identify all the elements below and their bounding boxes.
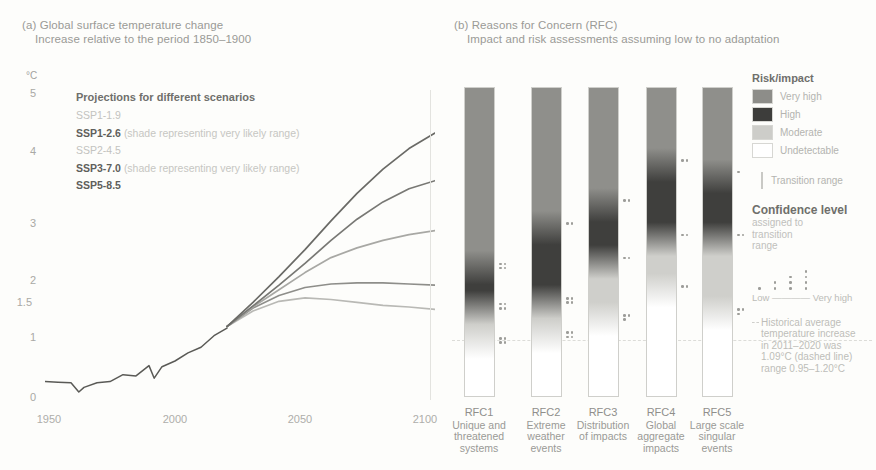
- confidence-dot-icon: [623, 199, 626, 202]
- confidence-dot-icon: [681, 159, 684, 162]
- rfc-bar-rfc1[interactable]: [464, 87, 495, 397]
- rfc-code: RFC3: [572, 407, 634, 419]
- historical-note-line-2: temperature increase: [761, 328, 876, 340]
- confidence-dot-icon: [805, 287, 808, 290]
- historical-note-line-1: Historical average: [761, 317, 876, 329]
- y-tick-1: 1: [10, 331, 36, 343]
- confidence-dot-icon: [789, 287, 792, 290]
- rfc-name: Unique and threatened systems: [452, 419, 506, 454]
- rfc-name: Distribution of impacts: [577, 419, 630, 443]
- swatch-high-icon: [752, 107, 773, 122]
- confidence-dot-icon: [623, 257, 626, 260]
- rfc-bar-rfc4[interactable]: [646, 87, 677, 397]
- confidence-dot-icon: [571, 301, 574, 304]
- temperature-plot-area: [45, 90, 435, 400]
- confidence-dot-icon: [774, 281, 777, 284]
- risk-label-undetectable: Undetectable: [780, 145, 839, 156]
- panel-b-title: Reasons for Concern (RFC): [472, 19, 618, 31]
- confidence-scale-col-1: [758, 287, 761, 290]
- temperature-lines: [45, 90, 435, 400]
- rfc-name: Global aggregate impacts: [637, 419, 684, 454]
- risk-level-high: High: [752, 106, 876, 123]
- rfc-code: RFC1: [448, 407, 510, 419]
- confidence-dots-rfc4-t1: [681, 284, 693, 288]
- confidence-dots-rfc5-t3: [737, 169, 749, 173]
- rfc-code: RFC5: [686, 407, 748, 419]
- historical-note: Historical average temperature increase …: [752, 317, 876, 375]
- panel-a-label: (a): [22, 19, 36, 31]
- confidence-sub-2: transition: [752, 229, 876, 241]
- confidence-dot-icon: [628, 257, 631, 260]
- confidence-dot-icon: [504, 307, 507, 310]
- rfc-label-rfc1: RFC1Unique and threatened systems: [448, 407, 510, 454]
- confidence-dot-icon: [504, 341, 507, 344]
- y-tick-3: 3: [10, 217, 36, 229]
- confidence-dot-icon: [789, 281, 792, 284]
- rfc-name: Extreme weather events: [526, 419, 565, 454]
- confidence-dot-icon: [686, 159, 689, 162]
- confidence-scale-col-3: [789, 276, 792, 290]
- rfc-bar-column-rfc4[interactable]: [646, 87, 677, 397]
- confidence-sub-1: assigned to: [752, 217, 876, 229]
- confidence-dots-rfc5-t2: [737, 232, 749, 236]
- panel-a-temperature-chart: (a) Global surface temperature change In…: [0, 0, 450, 470]
- confidence-very-high-label: Very high: [813, 292, 853, 303]
- rfc-bar-rfc2[interactable]: [531, 87, 562, 397]
- rfc-label-rfc2: RFC2Extreme weather events: [515, 407, 577, 454]
- confidence-dot-icon: [566, 301, 569, 304]
- risk-legend: Risk/impact Very high High Moderate Unde…: [752, 72, 876, 374]
- confidence-dots-rfc5-t1: [737, 307, 749, 316]
- confidence-scale-arrow: ————: [772, 292, 813, 303]
- rfc-label-rfc5: RFC5Large scale singular events: [686, 407, 748, 454]
- y-tick-2: 2: [10, 274, 36, 286]
- y-tick-4: 4: [10, 145, 36, 157]
- confidence-dot-icon: [737, 313, 740, 316]
- historical-note-line-5: range 0.95–1.20°C: [761, 363, 876, 375]
- line-ssp3-7-0: [227, 181, 435, 327]
- rfc-bar-column-rfc3[interactable]: [588, 87, 619, 397]
- confidence-dots-rfc3-t1: [623, 313, 635, 322]
- confidence-dot-icon: [686, 234, 689, 237]
- confidence-sub-3: range: [752, 240, 876, 252]
- line-historical: [45, 328, 227, 392]
- confidence-dot-icon: [499, 267, 502, 270]
- risk-level-undetectable: Undetectable: [752, 142, 876, 159]
- confidence-scale-col-4: [805, 270, 808, 289]
- transition-range-icon: [761, 172, 763, 189]
- risk-label-very-high: Very high: [780, 91, 822, 102]
- y-tick-1-5: 1.5: [6, 296, 32, 308]
- confidence-dot-icon: [499, 307, 502, 310]
- panel-a-subtitle: Increase relative to the period 1850–190…: [22, 32, 251, 46]
- confidence-dots-rfc3-t2: [623, 255, 635, 259]
- confidence-dot-scale: [758, 256, 876, 290]
- rfc-bar-column-rfc5[interactable]: [702, 87, 733, 397]
- confidence-dot-icon: [571, 336, 574, 339]
- confidence-scale-labels: Low ———— Very high: [752, 292, 876, 303]
- y-tick-0: 0: [10, 391, 36, 403]
- confidence-dot-icon: [789, 276, 792, 279]
- confidence-dots-rfc2-t1: [566, 330, 578, 339]
- rfc-bar-rfc5[interactable]: [702, 87, 733, 397]
- confidence-dot-icon: [623, 314, 626, 317]
- rfc-name: Large scale singular events: [690, 419, 744, 454]
- confidence-dot-icon: [737, 234, 740, 237]
- historical-dash-icon: [752, 322, 759, 323]
- rfc-bar-column-rfc1[interactable]: [464, 87, 495, 397]
- risk-label-high: High: [780, 109, 801, 120]
- rfc-code: RFC2: [515, 407, 577, 419]
- confidence-dot-icon: [737, 308, 740, 311]
- confidence-dot-icon: [681, 234, 684, 237]
- rfc-label-rfc3: RFC3Distribution of impacts: [572, 407, 634, 443]
- panel-b-label: (b): [454, 19, 468, 31]
- plot-right-axis: [430, 90, 431, 400]
- panel-b-title-block: (b) Reasons for Concern (RFC) Impact and…: [454, 18, 780, 46]
- confidence-dots-rfc1-t3: [499, 261, 511, 270]
- line-ssp1-2-6: [227, 283, 435, 327]
- rfc-bar-rfc3[interactable]: [588, 87, 619, 397]
- confidence-dot-icon: [686, 285, 689, 288]
- x-tick-2000: 2000: [150, 413, 200, 425]
- confidence-dot-icon: [571, 222, 574, 225]
- transition-range-label: Transition range: [771, 175, 843, 186]
- rfc-bar-column-rfc2[interactable]: [531, 87, 562, 397]
- confidence-dots-rfc4-t3: [681, 158, 693, 162]
